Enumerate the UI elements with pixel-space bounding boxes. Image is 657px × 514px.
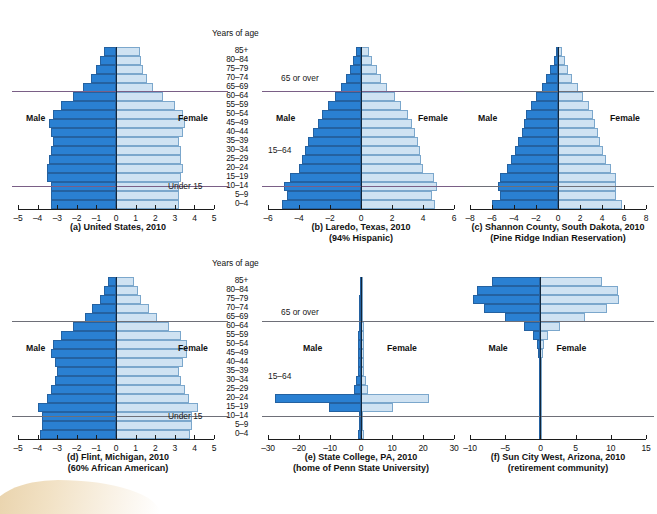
pyramid-row: [0, 394, 657, 403]
bar-female: [540, 322, 560, 331]
pyramid-row: [0, 277, 657, 286]
center-axis-line: [540, 277, 541, 439]
pyramid-row: [0, 421, 657, 430]
x-axis-tick: [505, 435, 506, 439]
male-label: Male: [488, 343, 507, 353]
bar-female: [540, 295, 619, 304]
bar-male: [524, 322, 541, 331]
pyramid-row: [0, 286, 657, 295]
pyramid-row: [0, 385, 657, 394]
divider-line-under-15: [464, 416, 654, 417]
bar-male: [473, 295, 541, 304]
divider-line-65-over: [464, 321, 654, 322]
pyramid-row: [0, 331, 657, 340]
x-axis-tick: [646, 435, 647, 439]
bar-female: [540, 304, 606, 313]
bar-male: [492, 277, 541, 286]
bar-male: [477, 286, 540, 295]
panel-subcaption: (retirement community): [408, 463, 657, 473]
x-axis-tick: [576, 435, 577, 439]
pyramid-row: [0, 367, 657, 376]
pyramid-row: [0, 358, 657, 367]
pyramid-row: [0, 322, 657, 331]
female-label: Female: [556, 343, 586, 353]
pyramid-row: [0, 304, 657, 313]
x-axis-tick: [470, 435, 471, 439]
x-axis-line: [470, 439, 646, 440]
x-axis-tick: [611, 435, 612, 439]
panel-caption: (f) Sun City West, Arizona, 2010: [408, 452, 657, 462]
bar-female: [540, 331, 548, 340]
bar-female: [540, 286, 617, 295]
x-axis-tick: [540, 435, 541, 439]
bar-male: [484, 304, 540, 313]
pyramid-row: [0, 430, 657, 439]
bar-female: [540, 277, 602, 286]
pyramid-row: [0, 403, 657, 412]
pyramid-row: [0, 295, 657, 304]
pyramid-row: [0, 376, 657, 385]
